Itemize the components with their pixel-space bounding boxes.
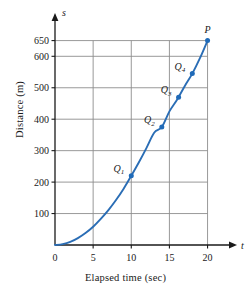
- svg-text:100: 100: [34, 208, 49, 219]
- svg-text:Q1: Q1: [114, 163, 125, 177]
- svg-text:400: 400: [34, 114, 49, 125]
- svg-text:200: 200: [34, 177, 49, 188]
- svg-text:Q2: Q2: [144, 114, 155, 128]
- axis-symbols: st: [62, 7, 244, 251]
- svg-text:15: 15: [164, 252, 174, 263]
- x-axis-title: Elapsed time (sec): [0, 272, 251, 283]
- svg-text:P: P: [204, 24, 211, 35]
- svg-text:s: s: [62, 7, 66, 18]
- y-tick-labels: 100200300400500600650: [34, 35, 49, 219]
- svg-text:5: 5: [91, 252, 96, 263]
- svg-text:Q4: Q4: [175, 61, 186, 75]
- svg-text:20: 20: [203, 252, 213, 263]
- svg-text:600: 600: [34, 51, 49, 62]
- x-tick-labels: 05101520: [53, 252, 213, 263]
- y-axis-title: Distance (m): [14, 65, 25, 155]
- svg-text:300: 300: [34, 145, 49, 156]
- chart-canvas: 05101520 100200300400500600650 Q1Q2Q3Q4P…: [0, 0, 251, 292]
- svg-text:Q3: Q3: [161, 84, 172, 98]
- svg-text:0: 0: [53, 252, 58, 263]
- svg-text:t: t: [241, 240, 244, 251]
- svg-text:10: 10: [126, 252, 136, 263]
- data-point-labels: Q1Q2Q3Q4P: [114, 24, 211, 177]
- svg-text:650: 650: [34, 35, 49, 46]
- distance-time-chart: 05101520 100200300400500600650 Q1Q2Q3Q4P…: [0, 0, 251, 292]
- svg-text:500: 500: [34, 82, 49, 93]
